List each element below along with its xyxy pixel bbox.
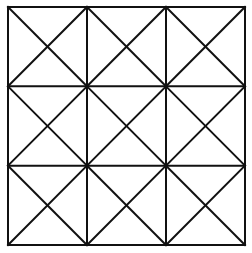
grid-diagram-svg [0, 0, 252, 253]
grid-diagram [0, 0, 252, 253]
diagonal-lines [8, 7, 245, 245]
